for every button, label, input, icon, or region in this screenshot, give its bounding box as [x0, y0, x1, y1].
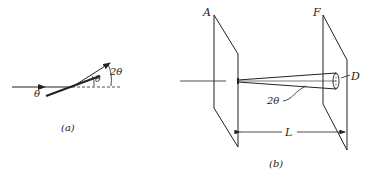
cone-lower-edge [238, 82, 336, 89]
reflected-ray [72, 63, 110, 87]
caption-a: (a) [61, 122, 75, 133]
mirror-angle-label: θ [95, 74, 101, 84]
spot-diameter-label: D [350, 70, 360, 83]
figure-a: θ θ 2θ (a) [12, 63, 122, 133]
deflection-label: 2θ [109, 66, 122, 77]
plate-f-label: F [312, 6, 321, 19]
cone-upper-edge [238, 73, 336, 80]
plate-a-label: A [202, 6, 211, 19]
cone-angle-label: 2θ [266, 95, 279, 106]
cone-angle-leader [283, 86, 306, 101]
d-leader [341, 75, 350, 78]
incident-angle-label: θ [34, 88, 40, 99]
diagram-canvas: θ θ 2θ (a) D 2θ L A F (b) [0, 0, 370, 176]
caption-b: (b) [269, 158, 283, 169]
plate-f [323, 15, 347, 150]
figure-b: D 2θ L A F (b) [180, 6, 360, 169]
distance-label: L [284, 126, 292, 139]
